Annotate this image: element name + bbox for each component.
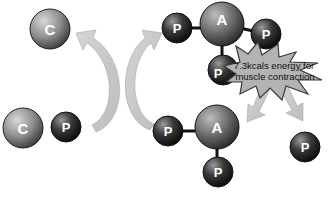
adenosine-label: A [212,119,223,136]
burst-text-line2: muscle contraction [235,71,314,82]
phosphate-label: P [62,120,71,135]
arrow-adp-to-atp [125,30,162,130]
phosphate-label: P [173,21,182,36]
phosphate-label: P [262,27,271,42]
burst-text-line1: 7.3kcals energy for [234,60,314,71]
free-phosphate: P [290,132,320,162]
energy-burst: 7.3kcals energy for muscle contraction [224,42,322,100]
phosphate-label: P [214,66,223,81]
arrow-cp-to-c [76,30,120,132]
creatine-label: C [45,21,56,38]
phosphate-label: P [214,165,223,180]
phosphate-label: P [301,140,310,155]
diagram-canvas: C C P P A P P 7.3kcals energy for muscle… [0,0,332,198]
creatine-molecule-top: C [30,9,72,49]
phosphate-label: P [164,124,173,139]
adenosine-label: A [217,11,228,28]
adp-molecule: P A P [153,105,239,187]
creatine-phosphate-molecule: C P [3,108,81,148]
creatine-label: C [18,120,29,137]
